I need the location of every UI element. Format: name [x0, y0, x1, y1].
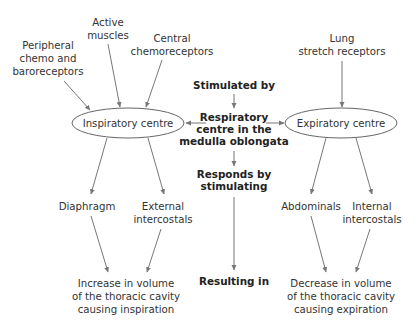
expiratory-centre-label: Expiratory centre [297, 118, 385, 129]
peripheral-line-1: Peripheral [22, 40, 74, 51]
expiration-outcome-line-2: of the thoracic cavity [287, 291, 395, 302]
inspiratory-centre-label: Inspiratory centre [83, 118, 174, 129]
arrow-central-to-inspiratory [146, 60, 162, 107]
internal-intercostals-label: Internal intercostals [342, 201, 401, 225]
diaphragm-label: Diaphragm [59, 201, 116, 212]
lung-stretch-receptors-label: Lung stretch receptors [298, 33, 385, 57]
responds-by-line-2: stimulating [201, 180, 268, 192]
inspiration-outcome-line-2: of the thoracic cavity [72, 291, 180, 302]
internal-line-1: Internal [352, 201, 391, 212]
arrow-diaphragm-to-increase [91, 216, 108, 272]
peripheral-receptors-label: Peripheral chemo and baroreceptors [12, 40, 83, 77]
arrow-abdominals-to-decrease [311, 216, 326, 272]
arrow-peripheral-to-inspiratory [64, 81, 90, 110]
expiratory-centre-node: Expiratory centre [285, 108, 397, 138]
external-line-1: External [142, 201, 184, 212]
arrow-inspiratory-to-diaphragm [91, 138, 107, 194]
peripheral-line-2: chemo and [20, 53, 77, 64]
internal-line-2: intercostals [342, 214, 401, 225]
external-line-2: intercostals [133, 214, 192, 225]
responds-by-line-1: Responds by [197, 168, 272, 180]
inspiration-outcome-line-1: Increase in volume [78, 278, 175, 289]
resulting-in-label: Resulting in [199, 275, 269, 287]
central-line-2: chemoreceptors [131, 46, 214, 57]
responds-by-label: Responds by stimulating [197, 168, 272, 192]
inspiration-outcome-line-3: causing inspiration [78, 304, 174, 315]
arrow-expiratory-to-internal [356, 138, 372, 194]
respiratory-centre-line-3: medulla oblongata [179, 135, 289, 147]
expiration-outcome-label: Decrease in volume of the thoracic cavit… [287, 278, 395, 315]
inspiration-outcome-label: Increase in volume of the thoracic cavit… [72, 278, 180, 315]
active-muscles-line-2: muscles [87, 30, 129, 41]
lung-stretch-line-1: Lung [330, 33, 355, 44]
expiration-outcome-line-1: Decrease in volume [290, 278, 391, 289]
active-muscles-line-1: Active [92, 17, 124, 28]
arrow-internal-to-decrease [356, 229, 370, 272]
respiratory-centre-label: Respiratory centre in the medulla oblong… [179, 111, 289, 147]
central-chemoreceptors-label: Central chemoreceptors [131, 33, 214, 57]
stimulated-by-label: Stimulated by [193, 79, 275, 91]
arrow-external-to-increase [147, 229, 161, 272]
active-muscles-label: Active muscles [87, 17, 129, 41]
peripheral-line-3: baroreceptors [12, 66, 83, 77]
arrow-muscles-to-inspiratory [108, 44, 120, 107]
arrow-inspiratory-to-external [148, 138, 164, 194]
respiratory-control-diagram: Peripheral chemo and baroreceptors Activ… [0, 0, 416, 330]
central-line-1: Central [153, 33, 190, 44]
inspiratory-centre-node: Inspiratory centre [72, 108, 184, 138]
respiratory-centre-line-2: centre in the [196, 123, 271, 135]
expiration-outcome-line-3: causing expiration [294, 304, 388, 315]
external-intercostals-label: External intercostals [133, 201, 192, 225]
lung-stretch-line-2: stretch receptors [298, 46, 385, 57]
respiratory-centre-line-1: Respiratory [200, 111, 269, 123]
abdominals-label: Abdominals [281, 201, 341, 212]
arrow-expiratory-to-abdominals [311, 138, 326, 194]
